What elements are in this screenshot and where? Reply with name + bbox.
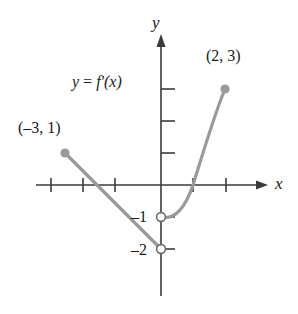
x-axis [36,178,268,192]
y-tick-label-neg1: –1 [131,209,147,225]
function-equation-label: y = f'(x) [72,74,122,90]
function-label-equals: = [83,73,92,90]
point-marker-2-3 [220,84,229,93]
y-axis [157,34,176,296]
right-endpoint-label: (2, 3) [206,48,241,64]
y-axis-label: y [152,14,160,31]
y-axis-ticks [161,89,175,249]
linear-branch [65,153,161,249]
graph-canvas [0,0,298,314]
y-tick-label-neg2: –2 [131,242,147,258]
point-marker-open-neg2 [157,245,166,254]
graph-figure: y x y = f'(x) (–3, 1) (2, 3) –1 –2 [0,0,298,314]
x-axis-label: x [275,175,283,192]
point-marker-open-neg1 [157,213,166,222]
point-marker-neg3-1 [60,148,69,157]
function-label-fprime: f'(x) [96,73,122,90]
left-endpoint-label: (–3, 1) [18,120,61,136]
